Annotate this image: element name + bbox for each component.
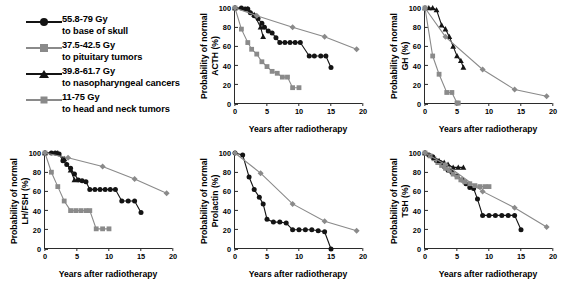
data-point xyxy=(282,40,287,45)
data-point xyxy=(107,226,112,231)
series-diamond xyxy=(422,150,550,230)
data-point xyxy=(259,59,264,64)
data-point xyxy=(55,184,60,189)
data-point xyxy=(323,54,328,59)
data-point xyxy=(293,40,298,45)
data-point xyxy=(512,87,518,93)
data-point xyxy=(270,69,275,74)
y-tick-label: 20 xyxy=(413,225,425,234)
data-point xyxy=(519,227,524,232)
y-tick-label: 60 xyxy=(413,42,425,51)
data-point xyxy=(298,40,303,45)
data-point xyxy=(254,52,259,57)
data-point xyxy=(544,93,550,99)
legend-cell: 55.8-79 Gyto base of skull37.5-42.5 Gyto… xyxy=(0,0,190,145)
data-point xyxy=(108,187,113,192)
legend-dose: 37.5-42.5 Gy xyxy=(62,40,142,52)
data-point xyxy=(322,229,327,234)
data-point xyxy=(312,54,317,59)
prolactin-x-axis-label: Years after radiotherapy xyxy=(234,269,362,279)
x-tick-label: 10 xyxy=(485,103,493,116)
legend-dose: 39.8-61.7 Gy xyxy=(62,66,180,78)
prolactin-series-layer xyxy=(235,153,363,249)
tsh-y-axis-label: Probability of normal TSH (%) xyxy=(389,158,410,244)
x-tick-label: 10 xyxy=(485,248,493,261)
series-square xyxy=(423,6,461,106)
data-point xyxy=(245,40,250,45)
data-point xyxy=(430,54,435,59)
gh-panel: Probability of normal GH (%)020406080100… xyxy=(380,0,573,145)
tsh-plot-area: 02040608010005101520 xyxy=(424,153,552,249)
gh-series-layer xyxy=(425,8,553,104)
data-point xyxy=(322,34,328,40)
x-tick-label: 20 xyxy=(169,248,177,261)
data-point xyxy=(87,187,92,192)
legend-item-label: 39.8-61.7 Gyto nasopharyngeal cancers xyxy=(62,66,180,89)
data-point xyxy=(240,152,245,157)
y-tick-label: 60 xyxy=(33,187,45,196)
legend-item-label: 55.8-79 Gyto base of skull xyxy=(62,14,128,37)
tsh-x-axis-label: Years after radiotherapy xyxy=(424,269,552,279)
x-tick-label: 0 xyxy=(423,103,427,116)
data-point xyxy=(73,208,78,213)
series-diamond xyxy=(422,5,550,99)
y-tick-label: 80 xyxy=(223,23,235,32)
x-tick-label: 20 xyxy=(359,103,367,116)
legend-dose: 11-75 Gy xyxy=(62,92,170,104)
y-tick-label: 40 xyxy=(33,206,45,215)
data-point xyxy=(544,224,550,230)
gh-plot-area: 02040608010005101520 xyxy=(424,8,552,104)
data-point xyxy=(487,184,492,189)
diamond-marker-icon xyxy=(26,93,62,106)
data-point xyxy=(290,24,296,30)
data-point xyxy=(280,75,285,80)
square-marker-icon xyxy=(26,41,62,54)
y-tick-label: 40 xyxy=(413,61,425,70)
data-point xyxy=(454,53,460,58)
data-point xyxy=(257,195,262,200)
data-point xyxy=(493,213,498,218)
data-point xyxy=(239,27,244,32)
data-point xyxy=(303,227,308,232)
series-circle xyxy=(43,151,144,216)
data-point xyxy=(290,227,295,232)
tsh-panel: Probability of normal TSH (%)02040608010… xyxy=(380,145,573,294)
data-point xyxy=(273,35,278,40)
data-point xyxy=(100,226,105,231)
data-point xyxy=(68,208,73,213)
chart-panel-lhfsh: Probability of normal LH/FSH (%)02040608… xyxy=(0,145,190,294)
y-axis-title: Probability of normal TSH (%) xyxy=(386,149,412,253)
radiotherapy-dose-legend: 55.8-79 Gyto base of skull37.5-42.5 Gyto… xyxy=(26,14,180,117)
data-point xyxy=(444,90,449,95)
legend-target: to nasopharyngeal cancers xyxy=(62,78,180,90)
data-point xyxy=(307,54,312,59)
x-tick-label: 20 xyxy=(359,248,367,261)
legend-item: 11-75 Gyto head and neck tumors xyxy=(26,92,180,117)
legend-dose: 55.8-79 Gy xyxy=(62,14,128,26)
y-tick-label: 20 xyxy=(223,225,235,234)
data-point xyxy=(297,227,302,232)
gh-x-axis-label: Years after radiotherapy xyxy=(424,124,552,134)
x-tick-label: 10 xyxy=(295,103,303,116)
data-point xyxy=(139,210,144,215)
data-point xyxy=(247,175,252,180)
x-tick-label: 15 xyxy=(517,103,525,116)
data-point xyxy=(83,179,88,184)
data-point xyxy=(49,170,54,175)
data-point xyxy=(512,205,518,211)
data-point xyxy=(456,101,461,106)
data-point xyxy=(437,72,442,77)
lhfsh-y-axis-label: Probability of normal LH/FSH (%) xyxy=(9,158,30,244)
tsh-series-layer xyxy=(425,153,553,249)
data-point xyxy=(94,226,99,231)
y-axis-title: Probability of normal Prolactin (%) xyxy=(196,149,222,253)
data-point xyxy=(329,247,334,252)
chart-panel-acth: Probability of normal ACTH (%)0204060801… xyxy=(190,0,380,145)
data-point xyxy=(270,30,275,35)
data-point xyxy=(449,90,454,95)
x-tick-label: 20 xyxy=(549,103,557,116)
data-point xyxy=(271,220,276,225)
data-point xyxy=(354,228,360,234)
series-square xyxy=(233,6,302,90)
data-point xyxy=(475,197,480,202)
